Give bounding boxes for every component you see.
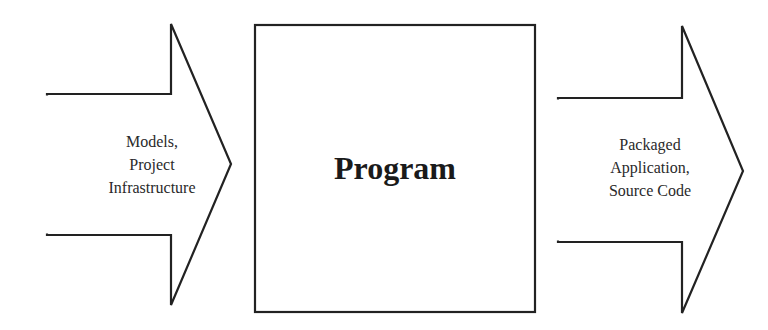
input-label-line: Project <box>92 153 212 176</box>
output-label-line: Source Code <box>590 179 710 202</box>
output-label-line: Application, <box>590 156 710 179</box>
input-arrow-label: Models, Project Infrastructure <box>92 130 212 199</box>
output-label-line: Packaged <box>590 133 710 156</box>
input-label-line: Models, <box>92 130 212 153</box>
program-title: Program <box>255 150 535 187</box>
input-label-line: Infrastructure <box>92 176 212 199</box>
output-arrow-label: Packaged Application, Source Code <box>590 133 710 202</box>
